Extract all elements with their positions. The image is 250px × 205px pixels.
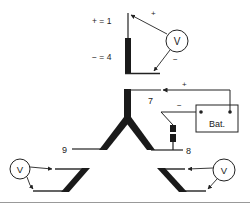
plus-terminal-label: + = 1 xyxy=(92,16,112,26)
minus-terminal-label: − = 4 xyxy=(92,52,112,62)
switch-lever xyxy=(161,112,173,125)
y-sensor-stem xyxy=(124,89,131,119)
component-upper xyxy=(170,125,176,132)
bottom-right-sensor: V xyxy=(157,159,235,192)
wiring-diagram: + = 1 − = 4 V + − 7 9 8 xyxy=(0,0,250,205)
battery-plus-sign: + xyxy=(182,80,187,89)
bottom-left-sensor: V xyxy=(10,159,90,192)
battery: Bat. xyxy=(196,105,238,132)
bl-voltmeter-label: V xyxy=(17,164,24,175)
top-sensor: + = 1 − = 4 V + − xyxy=(92,9,188,74)
br-probe-top xyxy=(188,168,213,169)
component-lower xyxy=(170,134,176,142)
plus-sign: + xyxy=(151,9,156,18)
terminal-8-label: 8 xyxy=(186,146,191,156)
plus-probe-wire xyxy=(131,15,167,34)
battery-minus-sign: − xyxy=(177,101,182,110)
top-sensor-thick-bar xyxy=(125,38,131,74)
br-thick-bar xyxy=(157,168,187,192)
br-voltmeter-label: V xyxy=(221,165,228,176)
bl-thick-bar xyxy=(61,168,90,192)
br-probe-bottom xyxy=(208,179,217,189)
y-sensor: 7 9 8 − Bat. + xyxy=(62,80,238,156)
minus-sign: − xyxy=(173,55,178,64)
minus-probe-wire xyxy=(154,50,170,71)
battery-minus-terminal xyxy=(199,110,203,114)
top-voltmeter: V xyxy=(166,30,188,52)
voltmeter-label: V xyxy=(174,36,181,47)
bl-probe-top xyxy=(30,167,52,169)
terminal-7-label: 7 xyxy=(148,96,153,106)
terminal-9-label: 9 xyxy=(62,145,67,155)
y-sensor-right-arm xyxy=(124,117,155,150)
bl-probe-bottom xyxy=(27,177,33,189)
battery-label: Bat. xyxy=(209,119,225,129)
